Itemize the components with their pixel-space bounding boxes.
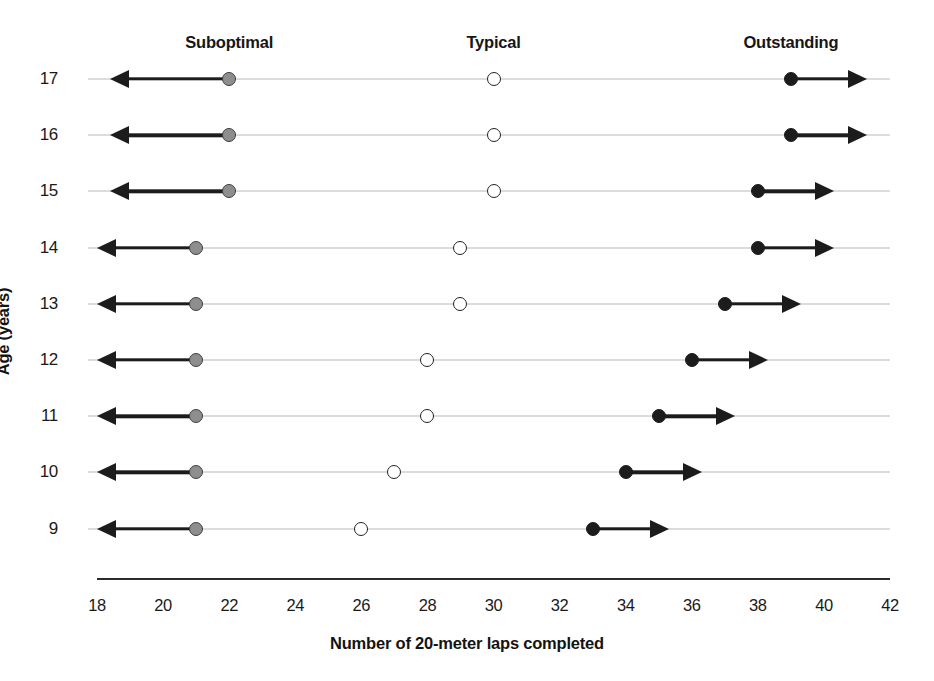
x-axis-title: Number of 20-meter laps completed bbox=[0, 634, 934, 653]
y-tick-label-age-17: 17 bbox=[18, 69, 58, 89]
x-tick-label: 38 bbox=[749, 596, 767, 615]
outstanding-arrow-shaft bbox=[593, 527, 655, 530]
marker-suboptimal bbox=[189, 465, 203, 479]
x-tick-label: 32 bbox=[551, 596, 569, 615]
row-baseline bbox=[88, 528, 890, 529]
outstanding-arrow-head-right bbox=[749, 351, 768, 369]
marker-suboptimal bbox=[189, 241, 203, 255]
chart-row: 10 bbox=[0, 457, 934, 487]
suboptimal-arrow-shaft bbox=[124, 190, 229, 193]
row-baseline bbox=[88, 472, 890, 473]
x-tick-label: 40 bbox=[815, 596, 833, 615]
y-tick-label-age-16: 16 bbox=[18, 125, 58, 145]
marker-outstanding bbox=[652, 409, 666, 423]
outstanding-arrow-head-right bbox=[848, 70, 867, 88]
zone-label-suboptimal: Suboptimal bbox=[185, 33, 273, 52]
zone-label-outstanding: Outstanding bbox=[743, 33, 838, 52]
chart-row: 12 bbox=[0, 345, 934, 375]
x-axis-line bbox=[97, 578, 890, 580]
y-tick-label-age-12: 12 bbox=[18, 350, 58, 370]
y-tick-label-age-14: 14 bbox=[18, 238, 58, 258]
y-tick-label-age-11: 11 bbox=[18, 406, 58, 426]
marker-suboptimal bbox=[222, 72, 236, 86]
marker-typical bbox=[420, 409, 434, 423]
suboptimal-arrow-head-left bbox=[97, 295, 116, 313]
chart-row: 13 bbox=[0, 289, 934, 319]
outstanding-arrow-shaft bbox=[725, 302, 787, 305]
suboptimal-arrow-shaft bbox=[124, 77, 229, 80]
marker-suboptimal bbox=[222, 128, 236, 142]
outstanding-arrow-head-right bbox=[650, 520, 669, 538]
marker-typical bbox=[487, 184, 501, 198]
fitness-lap-chart: SuboptimalTypicalOutstanding 17161514131… bbox=[0, 0, 934, 681]
suboptimal-arrow-head-left bbox=[97, 520, 116, 538]
outstanding-arrow-shaft bbox=[758, 246, 820, 249]
y-tick-label-age-15: 15 bbox=[18, 181, 58, 201]
marker-suboptimal bbox=[189, 297, 203, 311]
x-tick-label: 36 bbox=[683, 596, 701, 615]
marker-suboptimal bbox=[189, 353, 203, 367]
chart-row: 9 bbox=[0, 514, 934, 544]
marker-typical bbox=[420, 353, 434, 367]
marker-typical bbox=[387, 465, 401, 479]
outstanding-arrow-shaft bbox=[791, 77, 853, 80]
outstanding-arrow-head-right bbox=[683, 463, 702, 481]
x-tick-label: 24 bbox=[286, 596, 304, 615]
marker-outstanding bbox=[751, 241, 765, 255]
outstanding-arrow-head-right bbox=[815, 239, 834, 257]
marker-outstanding bbox=[784, 72, 798, 86]
suboptimal-arrow-head-left bbox=[110, 182, 129, 200]
outstanding-arrow-head-right bbox=[815, 182, 834, 200]
y-tick-label-age-13: 13 bbox=[18, 294, 58, 314]
suboptimal-arrow-shaft bbox=[111, 471, 196, 474]
marker-outstanding bbox=[751, 184, 765, 198]
x-tick-label: 28 bbox=[419, 596, 437, 615]
marker-outstanding bbox=[784, 128, 798, 142]
y-tick-label-age-9: 9 bbox=[18, 519, 58, 539]
x-tick-label: 30 bbox=[485, 596, 503, 615]
outstanding-arrow-shaft bbox=[692, 358, 754, 361]
outstanding-arrow-shaft bbox=[758, 190, 820, 193]
marker-typical bbox=[487, 128, 501, 142]
suboptimal-arrow-shaft bbox=[111, 414, 196, 417]
x-tick-label: 34 bbox=[617, 596, 635, 615]
marker-typical bbox=[487, 72, 501, 86]
marker-typical bbox=[453, 241, 467, 255]
zone-label-typical: Typical bbox=[466, 33, 520, 52]
marker-suboptimal bbox=[189, 522, 203, 536]
outstanding-arrow-shaft bbox=[791, 133, 853, 136]
chart-row: 14 bbox=[0, 233, 934, 263]
marker-suboptimal bbox=[189, 409, 203, 423]
outstanding-arrow-head-right bbox=[782, 295, 801, 313]
suboptimal-arrow-head-left bbox=[97, 239, 116, 257]
marker-outstanding bbox=[685, 353, 699, 367]
x-tick-label: 26 bbox=[353, 596, 371, 615]
row-baseline bbox=[88, 416, 890, 417]
y-axis-title: Age (years) bbox=[0, 288, 13, 376]
outstanding-arrow-shaft bbox=[626, 471, 688, 474]
x-tick-label: 22 bbox=[220, 596, 238, 615]
outstanding-arrow-shaft bbox=[659, 414, 721, 417]
marker-outstanding bbox=[718, 297, 732, 311]
suboptimal-arrow-shaft bbox=[111, 358, 196, 361]
suboptimal-arrow-head-left bbox=[97, 407, 116, 425]
row-baseline bbox=[88, 360, 890, 361]
marker-outstanding bbox=[586, 522, 600, 536]
suboptimal-arrow-shaft bbox=[111, 527, 196, 530]
chart-row: 15 bbox=[0, 176, 934, 206]
suboptimal-arrow-head-left bbox=[110, 126, 129, 144]
suboptimal-arrow-shaft bbox=[111, 246, 196, 249]
x-tick-label: 18 bbox=[88, 596, 106, 615]
suboptimal-arrow-shaft bbox=[124, 133, 229, 136]
chart-row: 16 bbox=[0, 120, 934, 150]
marker-outstanding bbox=[619, 465, 633, 479]
chart-row: 11 bbox=[0, 401, 934, 431]
chart-row: 17 bbox=[0, 64, 934, 94]
x-tick-label: 42 bbox=[881, 596, 899, 615]
outstanding-arrow-head-right bbox=[848, 126, 867, 144]
suboptimal-arrow-shaft bbox=[111, 302, 196, 305]
marker-typical bbox=[453, 297, 467, 311]
outstanding-arrow-head-right bbox=[716, 407, 735, 425]
x-tick-label: 20 bbox=[154, 596, 172, 615]
y-tick-label-age-10: 10 bbox=[18, 462, 58, 482]
